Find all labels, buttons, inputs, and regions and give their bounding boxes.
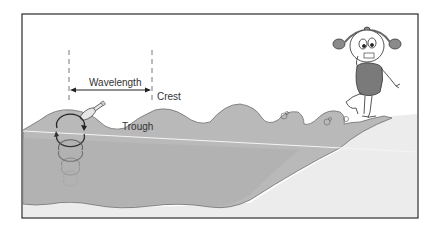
trough-label: Trough: [122, 121, 153, 132]
pigtail-right: [389, 39, 401, 49]
pigtail-left: [333, 39, 345, 49]
wavelength-label: Wavelength: [89, 77, 141, 88]
crest-label: Crest: [157, 91, 181, 102]
wave-diagram: Wavelength Crest Trough: [0, 0, 440, 229]
swimsuit: [356, 63, 383, 96]
